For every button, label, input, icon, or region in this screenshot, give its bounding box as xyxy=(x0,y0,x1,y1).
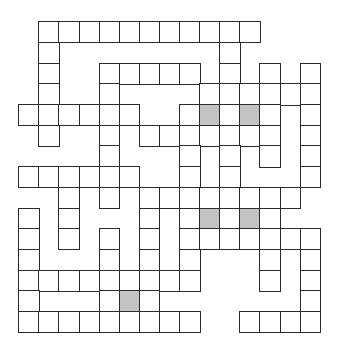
grid-cell[interactable] xyxy=(38,42,60,64)
grid-cell[interactable] xyxy=(300,228,322,250)
grid-cell[interactable] xyxy=(139,208,161,230)
grid-cell[interactable] xyxy=(99,228,121,250)
grid-cell[interactable] xyxy=(99,125,121,147)
grid-cell[interactable] xyxy=(199,125,221,147)
grid-cell[interactable] xyxy=(79,311,101,333)
grid-cell[interactable] xyxy=(18,249,40,271)
grid-cell[interactable] xyxy=(259,208,281,230)
grid-cell[interactable] xyxy=(179,125,201,147)
grid-cell[interactable] xyxy=(199,21,221,43)
grid-cell[interactable] xyxy=(179,187,201,209)
grid-cell[interactable] xyxy=(179,228,201,250)
grid-cell[interactable] xyxy=(219,208,241,230)
grid-cell[interactable] xyxy=(159,63,181,85)
grid-cell[interactable] xyxy=(38,104,60,126)
grid-cell[interactable] xyxy=(79,270,101,292)
grid-cell[interactable] xyxy=(239,228,261,250)
grid-cell[interactable] xyxy=(119,311,141,333)
grid-cell[interactable] xyxy=(300,311,322,333)
grid-cell[interactable] xyxy=(99,290,121,312)
grid-cell[interactable] xyxy=(99,21,121,43)
grid-cell[interactable] xyxy=(300,63,322,85)
grid-cell[interactable] xyxy=(300,104,322,126)
grid-cell[interactable] xyxy=(179,208,201,230)
grid-cell[interactable] xyxy=(139,249,161,271)
grid-cell[interactable] xyxy=(259,187,281,209)
grid-cell[interactable] xyxy=(139,125,161,147)
grid-cell[interactable] xyxy=(199,83,221,105)
grid-cell[interactable] xyxy=(300,145,322,167)
grid-cell[interactable] xyxy=(58,311,80,333)
grid-cell[interactable] xyxy=(300,166,322,188)
grid-cell[interactable] xyxy=(58,208,80,230)
grid-cell[interactable] xyxy=(139,228,161,250)
grid-cell[interactable] xyxy=(58,21,80,43)
grid-cell[interactable] xyxy=(99,187,121,209)
grid-cell[interactable] xyxy=(38,63,60,85)
grid-cell[interactable] xyxy=(99,270,121,292)
grid-cell[interactable] xyxy=(199,228,221,250)
grid-cell[interactable] xyxy=(58,270,80,292)
grid-cell[interactable] xyxy=(179,104,201,126)
grid-cell[interactable] xyxy=(300,270,322,292)
grid-cell[interactable] xyxy=(38,311,60,333)
grid-cell[interactable] xyxy=(259,270,281,292)
grid-cell[interactable] xyxy=(219,228,241,250)
grid-cell[interactable] xyxy=(99,104,121,126)
grid-cell[interactable] xyxy=(139,290,161,312)
grid-cell[interactable] xyxy=(179,311,201,333)
grid-cell[interactable] xyxy=(179,249,201,271)
grid-cell[interactable] xyxy=(199,187,221,209)
grid-cell[interactable] xyxy=(99,63,121,85)
grid-cell[interactable] xyxy=(300,249,322,271)
grid-cell[interactable] xyxy=(38,21,60,43)
grid-cell[interactable] xyxy=(139,311,161,333)
grid-cell[interactable] xyxy=(159,270,181,292)
grid-cell[interactable] xyxy=(179,145,201,167)
grid-cell[interactable] xyxy=(300,83,322,105)
grid-cell[interactable] xyxy=(119,63,141,85)
grid-cell[interactable] xyxy=(119,104,141,126)
grid-cell[interactable] xyxy=(219,125,241,147)
grid-cell[interactable] xyxy=(259,311,281,333)
grid-cell[interactable] xyxy=(58,166,80,188)
grid-cell[interactable] xyxy=(18,290,40,312)
grid-cell[interactable] xyxy=(179,166,201,188)
grid-cell[interactable] xyxy=(219,42,241,64)
grid-cell[interactable] xyxy=(38,125,60,147)
grid-cell[interactable] xyxy=(179,63,201,85)
grid-cell[interactable] xyxy=(259,63,281,85)
grid-cell[interactable] xyxy=(259,83,281,105)
grid-cell[interactable] xyxy=(300,125,322,147)
grid-cell[interactable] xyxy=(119,166,141,188)
grid-cell[interactable] xyxy=(99,166,121,188)
grid-cell[interactable] xyxy=(99,311,121,333)
grid-cell[interactable] xyxy=(219,187,241,209)
grid-cell[interactable] xyxy=(259,104,281,126)
grid-cell[interactable] xyxy=(239,125,261,147)
grid-cell[interactable] xyxy=(280,187,302,209)
grid-cell[interactable] xyxy=(179,21,201,43)
grid-cell[interactable] xyxy=(99,83,121,105)
grid-cell[interactable] xyxy=(219,145,241,167)
grid-cell[interactable] xyxy=(18,228,40,250)
grid-cell[interactable] xyxy=(38,270,60,292)
grid-cell[interactable] xyxy=(219,104,241,126)
grid-cell[interactable] xyxy=(99,249,121,271)
grid-cell[interactable] xyxy=(119,21,141,43)
grid-cell[interactable] xyxy=(219,21,241,43)
grid-cell[interactable] xyxy=(280,83,302,105)
grid-cell[interactable] xyxy=(38,83,60,105)
grid-cell[interactable] xyxy=(179,270,201,292)
grid-cell[interactable] xyxy=(259,249,281,271)
grid-cell[interactable] xyxy=(18,311,40,333)
grid-cell[interactable] xyxy=(38,166,60,188)
grid-cell[interactable] xyxy=(280,311,302,333)
grid-cell[interactable] xyxy=(219,63,241,85)
grid-cell[interactable] xyxy=(259,228,281,250)
grid-cell[interactable] xyxy=(79,104,101,126)
grid-cell[interactable] xyxy=(79,166,101,188)
grid-cell[interactable] xyxy=(159,187,181,209)
grid-cell[interactable] xyxy=(300,290,322,312)
grid-cell[interactable] xyxy=(18,270,40,292)
